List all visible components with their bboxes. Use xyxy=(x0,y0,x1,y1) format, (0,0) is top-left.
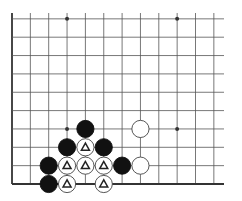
black-stone xyxy=(114,157,131,174)
white-stone xyxy=(58,157,75,174)
white-stone xyxy=(95,157,112,174)
go-board xyxy=(0,0,242,201)
black-stone xyxy=(40,157,57,174)
white-stone xyxy=(132,157,149,174)
star-point xyxy=(65,17,69,21)
white-stone xyxy=(77,139,94,156)
white-stone xyxy=(58,175,75,192)
white-stone xyxy=(95,175,112,192)
stones-layer xyxy=(40,120,149,192)
black-stone xyxy=(95,139,112,156)
star-point xyxy=(65,127,69,131)
white-stone xyxy=(77,157,94,174)
black-stone xyxy=(58,139,75,156)
star-point xyxy=(175,127,179,131)
black-stone xyxy=(40,175,57,192)
star-point xyxy=(175,17,179,21)
black-stone xyxy=(77,120,94,137)
white-stone xyxy=(132,120,149,137)
